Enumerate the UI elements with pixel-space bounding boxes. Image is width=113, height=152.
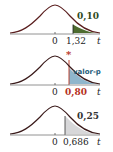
- axis-label-t: t: [97, 88, 101, 97]
- area-label: 0,10: [77, 12, 99, 21]
- critical-value-label: 0,80: [65, 88, 87, 97]
- critical-value-label: 1,32: [66, 37, 86, 46]
- area-label: 0,25: [77, 112, 99, 121]
- axis-label-t: t: [97, 37, 101, 46]
- asterisk-marker: *: [66, 50, 71, 59]
- t-distribution-panel-2: * valor-p 0 0,80 t: [0, 48, 113, 100]
- critical-value-label: 0,686: [63, 138, 89, 147]
- t-distribution-panel-3: 0,25 0 0,686 t: [0, 100, 113, 152]
- zero-tick-label: 0: [52, 88, 58, 97]
- zero-tick-label: 0: [52, 138, 58, 147]
- axis-label-t: t: [97, 138, 101, 147]
- p-value-label: valor-p: [73, 68, 101, 77]
- t-distribution-panel-1: 0,10 0 1,32 t: [0, 0, 113, 48]
- zero-tick-label: 0: [52, 37, 58, 46]
